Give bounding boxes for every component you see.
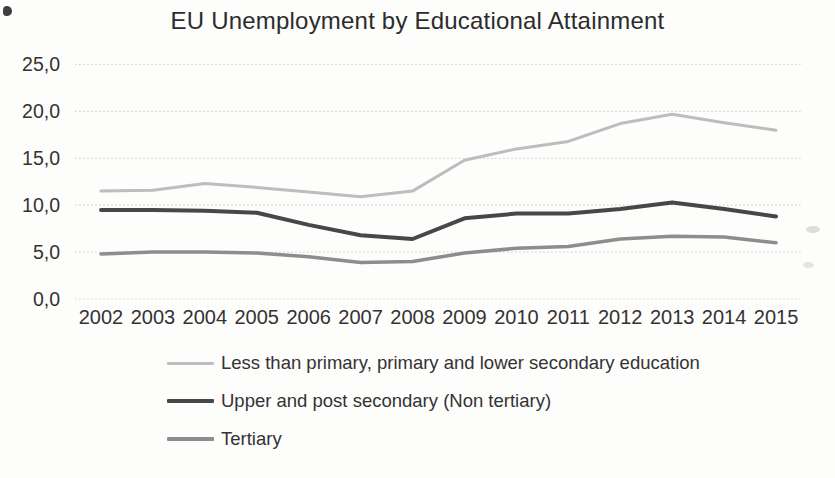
y-axis-tick-label: 10,0 xyxy=(22,194,60,216)
series-line-2 xyxy=(101,236,776,262)
x-axis-tick-label: 2002 xyxy=(79,306,124,328)
x-axis-tick-label: 2004 xyxy=(183,306,228,328)
x-axis-tick-label: 2003 xyxy=(131,306,176,328)
series-line-1 xyxy=(101,202,776,239)
x-axis-tick-label: 2010 xyxy=(494,306,539,328)
legend-item: Upper and post secondary (Non tertiary) xyxy=(167,382,700,420)
legend-swatch-line-icon xyxy=(167,437,214,441)
series-line-0 xyxy=(101,114,776,197)
y-axis-tick-label: 20,0 xyxy=(22,100,60,122)
y-axis-tick-label: 25,0 xyxy=(22,53,60,75)
x-axis-tick-label: 2009 xyxy=(442,306,487,328)
legend-label: Less than primary, primary and lower sec… xyxy=(221,352,700,374)
y-axis-tick-label: 0,0 xyxy=(33,288,60,310)
x-axis-tick-label: 2007 xyxy=(338,306,383,328)
y-axis-tick-label: 5,0 xyxy=(33,241,60,263)
y-axis-tick-label: 15,0 xyxy=(22,147,60,169)
x-axis-tick-label: 2008 xyxy=(390,306,435,328)
x-axis-tick-label: 2011 xyxy=(547,306,590,328)
x-axis-tick-label: 2012 xyxy=(598,306,643,328)
legend-item: Tertiary xyxy=(167,420,700,458)
chart-page: EU Unemployment by Educational Attainmen… xyxy=(0,0,835,478)
legend-label: Upper and post secondary (Non tertiary) xyxy=(221,390,551,412)
legend-swatch-line-icon xyxy=(167,362,214,365)
legend-item: Less than primary, primary and lower sec… xyxy=(167,344,700,382)
x-axis-tick-label: 2013 xyxy=(650,306,695,328)
chart-legend: Less than primary, primary and lower sec… xyxy=(167,344,700,458)
legend-swatch-line-icon xyxy=(167,399,214,403)
x-axis-tick-label: 2005 xyxy=(235,306,280,328)
x-axis-tick-label: 2014 xyxy=(702,306,747,328)
legend-label: Tertiary xyxy=(221,428,282,450)
x-axis-tick-label: 2006 xyxy=(286,306,331,328)
x-axis-tick-label: 2015 xyxy=(754,306,799,328)
